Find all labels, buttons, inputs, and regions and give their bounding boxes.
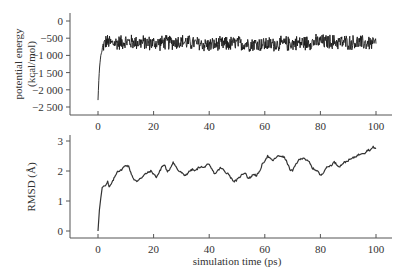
- x-tick-label: 20: [148, 243, 160, 255]
- top-y-label-line2: (kcal/mol): [25, 41, 38, 87]
- bottom-x-ticks: 020406080100: [95, 234, 385, 255]
- y-tick-label: 0: [58, 225, 64, 237]
- y-tick-label: −500: [40, 32, 63, 44]
- rmsd-panel: 0123 020406080100 RMSD (Å) simulation ti…: [25, 135, 392, 268]
- potential-energy-line: [98, 34, 376, 100]
- x-tick-label: 40: [204, 243, 216, 255]
- y-tick-label: 0: [58, 15, 64, 27]
- x-tick-label: 0: [95, 243, 101, 255]
- potential-energy-panel: 0−500−1 000−1 500−2 000−2 500 0204060801…: [12, 13, 392, 132]
- x-tick-label: 60: [259, 243, 271, 255]
- top-y-ticks: 0−500−1 000−1 500−2 000−2 500: [32, 15, 70, 113]
- x-tick-label: 80: [315, 120, 327, 132]
- y-tick-label: −2 500: [32, 101, 63, 113]
- rmsd-line: [98, 146, 376, 231]
- y-tick-label: 1: [58, 195, 64, 207]
- x-tick-label: 40: [204, 120, 216, 132]
- x-tick-label: 20: [148, 120, 160, 132]
- x-tick-label: 100: [368, 243, 385, 255]
- chart-canvas: 0−500−1 000−1 500−2 000−2 500 0204060801…: [0, 0, 405, 278]
- x-tick-label: 80: [315, 243, 327, 255]
- y-tick-label: 2: [58, 165, 64, 177]
- bottom-y-ticks: 0123: [58, 135, 71, 237]
- x-tick-label: 100: [368, 120, 385, 132]
- bottom-y-label: RMSD (Å): [25, 162, 38, 212]
- x-tick-label: 0: [95, 120, 101, 132]
- top-y-label-line1: potential energy: [12, 28, 24, 99]
- y-tick-label: 3: [58, 135, 64, 147]
- x-tick-label: 60: [259, 120, 271, 132]
- top-x-ticks: 020406080100: [95, 111, 385, 132]
- x-axis-label: simulation time (ps): [193, 255, 282, 268]
